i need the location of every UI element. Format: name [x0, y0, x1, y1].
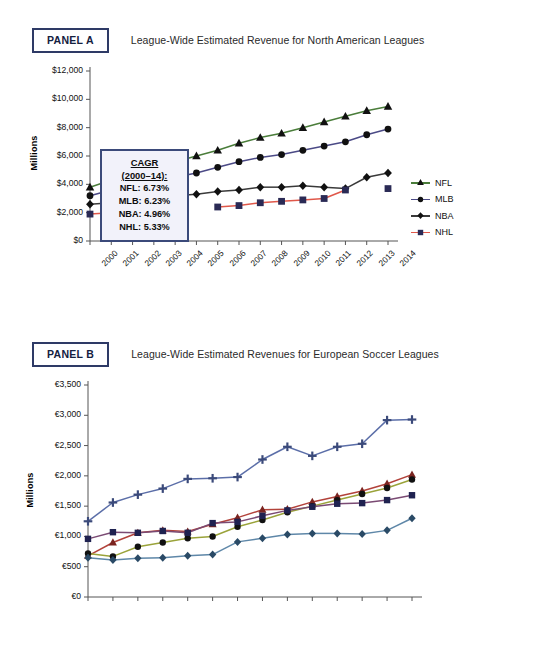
legend-marker-diamond-icon: [411, 211, 430, 220]
y-axis-tick-label: $12,000: [52, 65, 83, 75]
panel-a-cagr-box: CAGR (2000–14): NFL: 6.73% MLB: 6.23% NB…: [100, 149, 189, 243]
y-axis-tick-label: €1,000: [55, 530, 81, 540]
y-axis-tick-label: $0: [73, 235, 83, 245]
y-axis-tick-label: $10,000: [52, 93, 83, 103]
panel-a-plot: [0, 53, 533, 299]
y-axis-tick-label: €0: [71, 591, 81, 601]
panel-a-header: PANEL A League-Wide Estimated Revenue fo…: [0, 0, 533, 53]
y-axis-tick-label: €3,500: [55, 379, 81, 389]
y-axis-tick-label: $8,000: [57, 122, 83, 132]
legend-marker-triangle-icon: [411, 178, 430, 187]
cagr-title: CAGR: [106, 156, 183, 169]
panel-b-tag: PANEL B: [32, 342, 109, 367]
y-axis-tick-label: €1,500: [55, 500, 81, 510]
y-axis-tick-label: €3,000: [55, 409, 81, 419]
legend-item-nba[interactable]: NBA: [411, 211, 454, 221]
legend-marker-circle-icon: [411, 195, 430, 204]
panel-a-chart: Millions CAGR (2000–14): NFL: 6.73% MLB:…: [0, 53, 533, 299]
panel-a-legend: NFLMLBNBANHL: [411, 178, 454, 238]
cagr-row-mlb: MLB: 6.23%: [106, 195, 183, 208]
y-axis-tick-label: €500: [62, 561, 81, 571]
panel-a-title: League-Wide Estimated Revenue for North …: [131, 34, 424, 46]
cagr-row-nhl: NHL: 5.33%: [106, 221, 183, 234]
legend-item-nhl[interactable]: NHL: [411, 227, 454, 237]
legend-label: NFL: [435, 178, 452, 188]
panel-a-tag: PANEL A: [32, 28, 109, 53]
y-axis-tick-label: $6,000: [57, 150, 83, 160]
y-axis-tick-label: $4,000: [57, 178, 83, 188]
panel-b-header: PANEL B League-Wide Estimated Revenues f…: [0, 330, 533, 367]
y-axis-tick-label: €2,000: [55, 470, 81, 480]
panel-b: PANEL B League-Wide Estimated Revenues f…: [0, 330, 533, 646]
panel-b-plot: [0, 367, 533, 625]
cagr-row-nfl: NFL: 6.73%: [106, 182, 183, 195]
legend-marker-square-icon: [411, 228, 430, 237]
legend-label: MLB: [435, 194, 454, 204]
cagr-row-nba: NBA: 4.96%: [106, 208, 183, 221]
y-axis-tick-label: €2,500: [55, 440, 81, 450]
panel-a: PANEL A League-Wide Estimated Revenue fo…: [0, 0, 533, 330]
y-axis-tick-label: $2,000: [57, 207, 83, 217]
legend-item-nfl[interactable]: NFL: [411, 178, 454, 188]
legend-label: NBA: [435, 211, 454, 221]
panel-b-title: League-Wide Estimated Revenues for Europ…: [131, 348, 439, 360]
panel-b-chart: Millions CAGR (2000–13): England: 6.51% …: [0, 367, 533, 625]
legend-label: NHL: [435, 227, 453, 237]
cagr-subtitle: (2000–14):: [106, 169, 183, 182]
legend-item-mlb[interactable]: MLB: [411, 194, 454, 204]
